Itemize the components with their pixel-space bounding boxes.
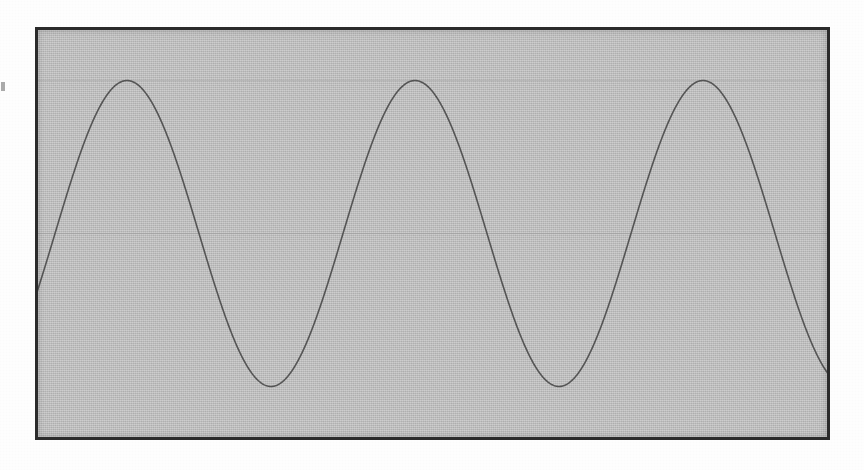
gridlines bbox=[38, 81, 827, 234]
figure-caption bbox=[0, 0, 1, 1]
scan-speck-artifact bbox=[1, 82, 5, 91]
scanned-page bbox=[0, 0, 864, 470]
sine-wave-chart bbox=[35, 27, 830, 440]
plot-frame bbox=[35, 27, 830, 440]
